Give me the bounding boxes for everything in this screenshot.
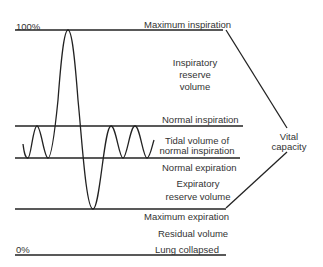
label-vital-2: capacity xyxy=(272,141,307,152)
label-tidal-2: normal inspiration xyxy=(160,145,235,156)
label-irv-2: reserve xyxy=(179,69,211,80)
label-irv-3: volume xyxy=(180,81,211,92)
label-max-inspiration: Maximum inspiration xyxy=(144,19,231,30)
label-irv-1: Inspiratory xyxy=(173,57,217,68)
volume-trace xyxy=(23,30,154,209)
label-lung-collapsed: Lung collapsed xyxy=(155,244,219,255)
label-residual-volume: Residual volume xyxy=(158,228,228,239)
label-erv-1: Expiratory xyxy=(177,178,220,189)
label-max-expiration: Maximum expiration xyxy=(144,211,229,222)
label-normal-inspiration: Normal inspiration xyxy=(162,114,239,125)
spirogram-graphic xyxy=(0,0,323,267)
label-erv-2: reserve volume xyxy=(166,191,231,202)
axis-label-0: 0% xyxy=(16,244,30,255)
vital-capacity-bracket-lower xyxy=(226,152,287,208)
label-normal-expiration: Normal expiration xyxy=(162,162,236,173)
axis-label-100: 100% xyxy=(16,21,40,32)
